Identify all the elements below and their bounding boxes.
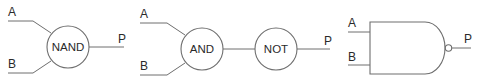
input-b-label: B (140, 59, 148, 73)
nand-circle-diagram: A B NAND P (8, 5, 126, 73)
output-p-label: P (324, 34, 332, 48)
input-b-label: B (8, 57, 16, 71)
input-b-label: B (348, 50, 356, 64)
input-a-label: A (140, 7, 148, 21)
output-p-label: P (118, 32, 126, 46)
input-a-label: A (348, 16, 356, 30)
input-a-label: A (8, 5, 16, 19)
nand-gate-body (370, 22, 445, 74)
inversion-bubble (445, 45, 451, 51)
input-a-wire (8, 21, 51, 33)
logic-gates-diagram: A B NAND P A B AND NOT P A B P (0, 0, 480, 82)
nand-gate-label: NAND (52, 41, 85, 53)
and-not-diagram: A B AND NOT P (140, 7, 332, 75)
nand-symbol-diagram: A B P (348, 16, 472, 74)
input-a-wire (140, 23, 185, 35)
output-p-label: P (464, 32, 472, 46)
and-gate-label: AND (190, 43, 214, 55)
not-gate-label: NOT (264, 43, 288, 55)
